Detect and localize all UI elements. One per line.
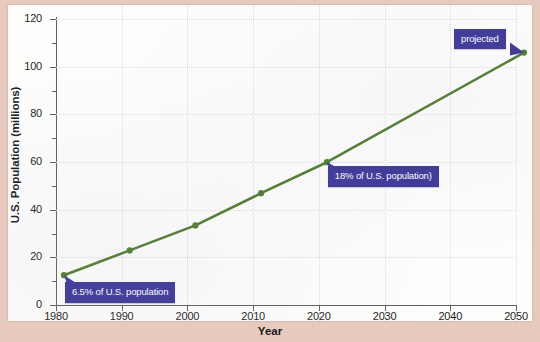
annotation-2020: 18% of U.S. population) [328, 166, 439, 187]
x-tick-label: 1990 [99, 310, 145, 322]
y-tick-label: 60 [8, 155, 42, 167]
y-tick-minor [52, 186, 56, 187]
x-tick-label: 2000 [164, 310, 210, 322]
x-tick-label: 2030 [362, 310, 408, 322]
y-tick-label: 0 [8, 298, 42, 310]
data-point-marker [61, 272, 67, 278]
y-tick-minor [52, 281, 56, 282]
data-point-marker [521, 50, 527, 56]
scanned-figure: U.S. Population (millions) Year 02040608… [8, 5, 532, 321]
gridline-horizontal [56, 67, 516, 68]
y-tick-minor [52, 91, 56, 92]
x-tick-label: 2020 [296, 310, 342, 322]
y-tick [50, 257, 56, 258]
annotation-projected: projected [454, 29, 506, 50]
y-tick [50, 305, 56, 306]
data-point-marker [192, 222, 198, 228]
gridline-horizontal [56, 162, 516, 163]
y-tick [50, 67, 56, 68]
gridline-vertical [122, 5, 123, 321]
x-axis-line [55, 305, 517, 306]
x-tick-label: 2050 [493, 310, 539, 322]
y-tick-label: 80 [8, 107, 42, 119]
gridline-horizontal [56, 19, 516, 20]
figure-page: U.S. Population (millions) Year 02040608… [0, 0, 540, 342]
annotation-pointer [510, 43, 524, 56]
gridline-horizontal [56, 257, 516, 258]
x-tick-label: 1980 [33, 310, 79, 322]
data-point-marker [258, 190, 264, 196]
x-tick-label: 2010 [230, 310, 276, 322]
gridline-vertical [187, 5, 188, 321]
data-point-marker [127, 247, 133, 253]
y-tick [50, 114, 56, 115]
y-tick-label: 40 [8, 203, 42, 215]
gridline-horizontal [56, 210, 516, 211]
y-tick-minor [52, 234, 56, 235]
y-tick-label: 20 [8, 250, 42, 262]
x-tick-label: 2040 [427, 310, 473, 322]
gridline-horizontal [56, 114, 516, 115]
y-tick-label: 120 [8, 12, 42, 24]
gridline-vertical [385, 5, 386, 321]
gridline-vertical [253, 5, 254, 321]
y-tick-minor [52, 43, 56, 44]
y-tick-minor [52, 138, 56, 139]
annotation-1980: 6.5% of U.S. population [65, 282, 175, 303]
gridline-vertical [319, 5, 320, 321]
gridline-vertical [450, 5, 451, 321]
gridline-vertical [516, 5, 517, 321]
x-axis-title: Year [8, 325, 532, 337]
y-tick [50, 19, 56, 20]
y-tick [50, 210, 56, 211]
y-tick-label: 100 [8, 60, 42, 72]
y-tick [50, 162, 56, 163]
